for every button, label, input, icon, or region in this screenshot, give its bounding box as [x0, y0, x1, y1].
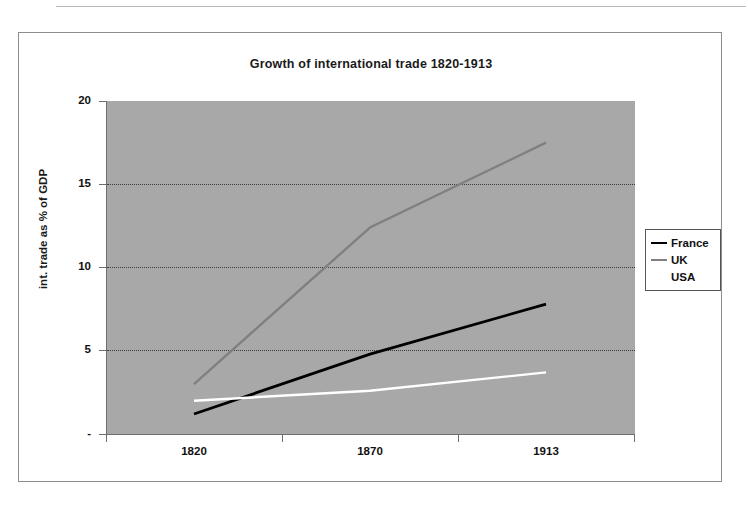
x-tick-mark-1 [282, 434, 283, 442]
legend-swatch-uk [651, 259, 667, 261]
series-line-uk [194, 143, 546, 384]
legend-swatch-france [651, 242, 667, 244]
legend-label-usa: USA [671, 271, 695, 283]
y-tick-label-0: - [51, 427, 91, 439]
chart-title: Growth of international trade 1820-1913 [19, 57, 723, 71]
legend-swatch-usa [651, 276, 667, 278]
legend-label-france: France [671, 237, 709, 249]
y-tick-label-20: 20 [51, 94, 91, 106]
y-axis-title: int. trade as % of GDP [37, 129, 49, 329]
x-tick-label-1820: 1820 [149, 445, 239, 457]
legend-label-uk: UK [671, 254, 688, 266]
legend-item-usa: USA [646, 268, 720, 285]
y-tick-label-10: 10 [51, 260, 91, 272]
x-tick-label-1913: 1913 [501, 445, 591, 457]
x-tick-mark-2 [458, 434, 459, 442]
y-tick-label-5: 5 [51, 343, 91, 355]
chart-legend: France UK USA [645, 229, 721, 291]
x-tick-label-1870: 1870 [325, 445, 415, 457]
page-top-rule [56, 6, 746, 7]
series-lines [106, 101, 634, 434]
x-tick-mark-left [106, 434, 107, 442]
chart-container: Growth of international trade 1820-1913 … [18, 32, 722, 482]
x-tick-mark-right [634, 434, 635, 442]
x-axis-line [106, 434, 635, 435]
legend-item-france: France [646, 234, 720, 251]
y-tick-label-15: 15 [51, 177, 91, 189]
legend-item-uk: UK [646, 251, 720, 268]
